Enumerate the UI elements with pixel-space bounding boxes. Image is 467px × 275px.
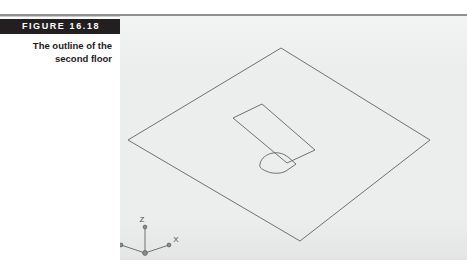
cad-drawing-panel: Z Y X bbox=[120, 16, 467, 260]
floor-outline-polygon bbox=[128, 48, 430, 241]
stairwell-opening-polygon bbox=[233, 104, 315, 163]
figure-caption: The outline of the second floor bbox=[0, 40, 112, 65]
ucs-axis-z-tip bbox=[143, 225, 147, 229]
ucs-axis-x-tip bbox=[167, 243, 171, 247]
figure-number-bar: FIGURE 16.18 bbox=[0, 19, 120, 34]
ucs-axis-y-line bbox=[121, 245, 145, 253]
ucs-axis-x-line bbox=[145, 245, 169, 253]
figure-caption-column: FIGURE 16.18 The outline of the second f… bbox=[0, 18, 120, 78]
ucs-icon: Z Y X bbox=[120, 215, 179, 255]
figure-page: FIGURE 16.18 The outline of the second f… bbox=[0, 0, 467, 275]
cad-drawing: Z Y X bbox=[120, 16, 467, 260]
ucs-axis-z-label: Z bbox=[140, 215, 145, 224]
figure-caption-line-1: The outline of the bbox=[0, 40, 112, 53]
ucs-axis-y-tip bbox=[120, 243, 123, 247]
figure-caption-line-2: second floor bbox=[0, 53, 112, 66]
ucs-origin-marker bbox=[143, 251, 148, 256]
ucs-axis-x-label: X bbox=[173, 235, 179, 244]
figure-number-label: FIGURE 16.18 bbox=[20, 22, 100, 31]
